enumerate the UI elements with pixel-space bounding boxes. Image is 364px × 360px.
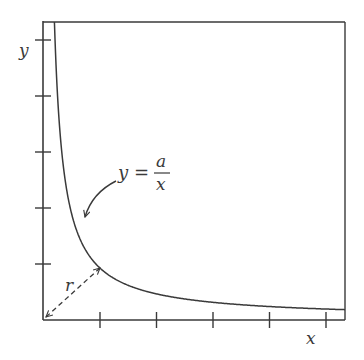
distance-r-label: r	[65, 275, 74, 295]
equation-denominator: x	[156, 174, 166, 194]
hyperbola-curve	[54, 22, 345, 310]
y-axis-label: y	[18, 40, 29, 60]
curve-equation-label: y = a x	[117, 151, 170, 194]
equation-numerator: a	[156, 151, 166, 171]
plot-frame	[43, 21, 345, 320]
x-axis-label: x	[306, 328, 316, 348]
equation-lhs: y	[117, 162, 129, 183]
equation-equals: =	[134, 162, 149, 183]
hyperbola-diagram: y x r y = a x	[0, 0, 364, 360]
curve-label-arrow	[85, 181, 116, 217]
